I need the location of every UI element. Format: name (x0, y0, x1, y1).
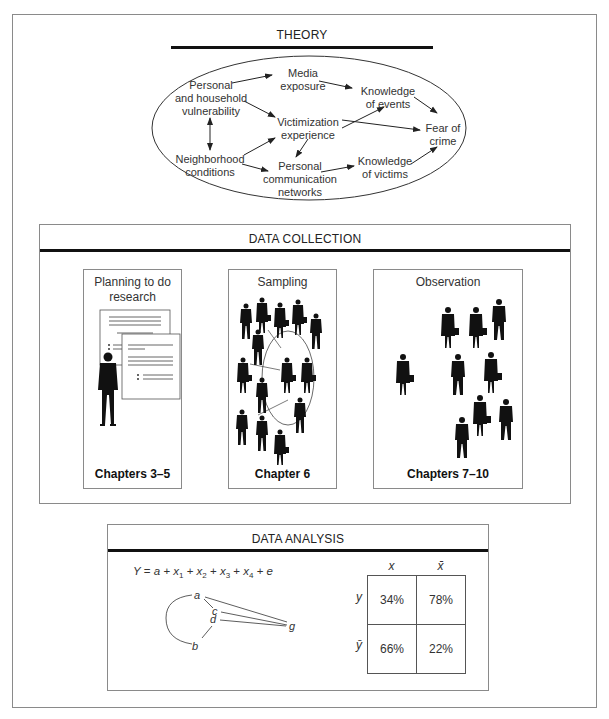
cell-ybar-x: 66% (368, 625, 417, 674)
data-analysis-rule (108, 549, 488, 552)
regression-equation: Y = a + x1 + x2 + x3 + x4 + e (133, 565, 273, 580)
panel-observation-label: Observation (373, 275, 523, 290)
data-analysis-title: DATA ANALYSIS (107, 532, 489, 546)
panel-sampling-label: Sampling (228, 275, 337, 290)
table-row: 66% 22% (368, 625, 466, 674)
node-knowledge-of-events: Knowledge of events (356, 85, 420, 111)
col-header-xbar: x̄ (416, 559, 465, 573)
node-personal-vulnerability: Personal and household vulnerability (172, 79, 250, 118)
panel-observation-chapter: Chapters 7–10 (373, 467, 523, 481)
data-collection-rule (40, 249, 570, 252)
node-neighborhood-conditions: Neighborhood conditions (170, 153, 250, 179)
table-row: 34% 78% (368, 576, 466, 625)
node-knowledge-of-victims: Knowledge of victims (352, 155, 418, 181)
svg-text:a: a (194, 589, 200, 601)
panel-sampling-chapter: Chapter 6 (228, 467, 337, 481)
node-media-exposure: Media exposure (270, 67, 336, 93)
node-fear-of-crime: Fear of crime (418, 122, 468, 148)
data-collection-title: DATA COLLECTION (39, 232, 571, 246)
col-header-x: x (367, 559, 416, 573)
panel-planning-label: Planning to do research (83, 275, 182, 305)
node-personal-communication-networks: Personal communication networks (258, 160, 342, 199)
svg-text:b: b (192, 640, 198, 652)
node-victimization-experience: Victimization experience (268, 116, 348, 142)
cell-y-xbar: 78% (417, 576, 466, 625)
row-header-y: y (352, 590, 366, 604)
path-graph: a c d b g (150, 590, 350, 690)
crowd-observation-icon (373, 290, 523, 470)
crowd-sample-icon (228, 290, 337, 470)
documents-and-person-icon (83, 305, 183, 465)
panel-planning-chapter: Chapters 3–5 (83, 467, 182, 481)
crosstab-table: 34% 78% 66% 22% (367, 575, 466, 674)
row-header-ybar: ȳ (352, 638, 366, 652)
cell-y-x: 34% (368, 576, 417, 625)
svg-text:g: g (289, 620, 296, 632)
svg-text:d: d (210, 613, 217, 625)
cell-ybar-xbar: 22% (417, 625, 466, 674)
